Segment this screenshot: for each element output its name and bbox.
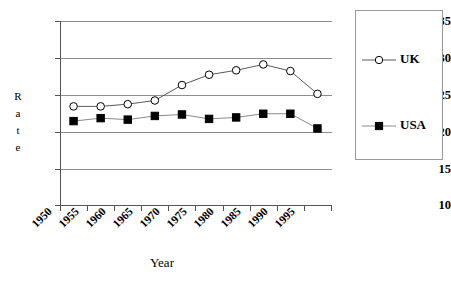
x-tick-mark <box>277 206 278 211</box>
open-circle-marker-icon <box>362 52 396 64</box>
x-tick-mark <box>250 206 251 211</box>
x-tick-mark <box>304 206 305 211</box>
filled-square-marker-icon <box>362 118 396 130</box>
y-axis-title-letter: R <box>10 88 26 105</box>
chart-legend: UK USA <box>355 10 443 160</box>
x-axis-title: Year <box>150 256 174 269</box>
y-axis-title-letter: t <box>10 122 26 139</box>
y-axis-title: R a t e <box>10 88 26 156</box>
legend-label: USA <box>400 118 426 131</box>
y-tick-label: 10 <box>411 199 451 212</box>
x-tick-mark <box>195 206 196 211</box>
x-tick-mark <box>168 206 169 211</box>
gridline <box>61 132 332 133</box>
x-tick-mark <box>331 206 332 211</box>
legend-label: UK <box>400 52 420 65</box>
gridline <box>61 58 332 59</box>
y-axis-title-letter: a <box>10 105 26 122</box>
x-tick-mark <box>223 206 224 211</box>
line-chart: R a t e 35 30 25 20 15 10 <box>0 0 451 285</box>
x-tick-mark <box>114 206 115 211</box>
y-axis-title-letter: e <box>10 139 26 156</box>
plot-area <box>60 21 332 206</box>
x-tick-label: 1950 <box>30 206 54 230</box>
legend-entry-usa[interactable]: USA <box>362 117 426 131</box>
legend-entry-uk[interactable]: UK <box>362 51 420 65</box>
y-tick-label: 15 <box>411 163 451 176</box>
x-tick-mark <box>87 206 88 211</box>
gridline <box>61 95 332 96</box>
gridline <box>61 169 332 170</box>
x-tick-mark <box>60 206 61 211</box>
gridline <box>61 21 332 22</box>
x-tick-mark <box>141 206 142 211</box>
